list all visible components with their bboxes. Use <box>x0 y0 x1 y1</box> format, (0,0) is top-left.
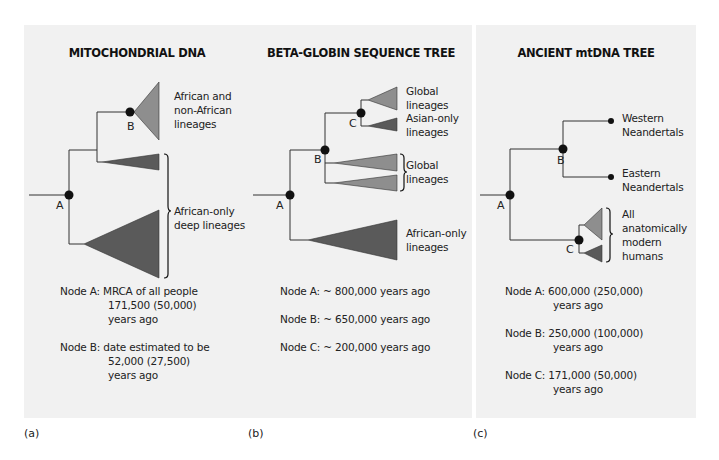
clade-african-deep-1 <box>102 154 159 170</box>
clade-label-eastern-neandertals: Eastern Neandertals <box>622 166 684 194</box>
clade-label-global-2: Global lineages <box>406 158 448 186</box>
panel-letter-c: (c) <box>473 427 488 440</box>
node-label-c: C <box>566 243 574 256</box>
clade-label-african-non-african: African and non-African lineages <box>174 89 232 131</box>
node-label-a: A <box>497 199 505 212</box>
note-node-a: Node A: ~ 800,000 years ago <box>280 284 430 298</box>
clade-african-non-african <box>134 82 159 140</box>
panel-letter-b: (b) <box>248 427 264 440</box>
clade-label-african-only-deep: African-only deep lineages <box>174 204 245 232</box>
panel-a-title: MITOCHONDRIAL DNA <box>24 46 250 60</box>
note-node-c: Node C: 171,000 (50,000) years ago <box>505 368 637 396</box>
node-label-b: B <box>314 153 322 166</box>
node-label-b: B <box>557 154 565 167</box>
panel-c-title: ANCIENT mtDNA TREE <box>476 46 696 60</box>
panel-letter-a: (a) <box>24 427 39 440</box>
node-label-b: B <box>127 120 135 133</box>
clade-label-global-1: Global lineages <box>406 84 448 112</box>
clade-label-asian-only: Asian-only lineages <box>406 111 459 139</box>
node-label-c: C <box>349 117 357 130</box>
note-node-b: Node B: 250,000 (100,000) years ago <box>505 326 643 354</box>
note-node-a: Node A: MRCA of all people 171,500 (50,0… <box>60 284 198 326</box>
note-node-c: Node C: ~ 200,000 years ago <box>280 340 430 354</box>
node-label-a: A <box>56 199 64 212</box>
note-node-a: Node A: 600,000 (250,000) years ago <box>505 284 643 312</box>
node-label-a: A <box>276 199 284 212</box>
clade-label-western-neandertals: Western Neandertals <box>622 111 684 139</box>
clade-label-african-only: African-only lineages <box>406 226 466 254</box>
clade-african-deep-2 <box>84 210 159 278</box>
panel-b-title: BETA-GLOBIN SEQUENCE TREE <box>250 46 472 60</box>
clade-label-modern-humans: All anatomically modern humans <box>622 207 687 263</box>
note-node-b: Node B: date estimated to be 52,000 (27,… <box>60 340 209 382</box>
note-node-b: Node B: ~ 650,000 years ago <box>280 312 430 326</box>
